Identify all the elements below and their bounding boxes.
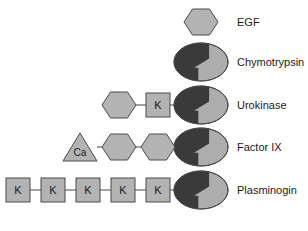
row-label-factor-ix: Factor IX — [237, 141, 282, 153]
domain-architecture-figure: EGFChymotrypsinKUrokinaseCaFactor IXKKKK… — [0, 0, 308, 231]
row-label-plasminogin: Plasminogin — [237, 184, 297, 196]
kringle-domain-letter: K — [84, 184, 92, 196]
row-label-chymotrypsin: Chymotrypsin — [237, 56, 304, 68]
kringle-domain-letter: K — [154, 99, 162, 111]
diagram-canvas: EGFChymotrypsinKUrokinaseCaFactor IXKKKK… — [0, 0, 308, 231]
row-label-urokinase: Urokinase — [237, 99, 287, 111]
kringle-domain-letter: K — [49, 184, 57, 196]
kringle-domain-letter: K — [14, 184, 22, 196]
calcium-domain-label: Ca — [74, 147, 87, 158]
kringle-domain-letter: K — [154, 184, 162, 196]
row-label-egf: EGF — [237, 16, 260, 28]
kringle-domain-letter: K — [119, 184, 127, 196]
